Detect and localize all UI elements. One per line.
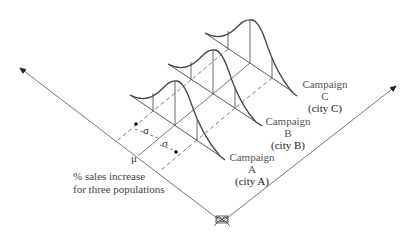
axis-caption-line1: % sales increase xyxy=(73,170,165,183)
left-axis xyxy=(20,68,222,222)
sigma-label-2: σ xyxy=(162,137,168,149)
mean-label: μ xyxy=(131,152,137,164)
sigma-label-1: σ xyxy=(143,124,149,136)
campaign-b-name: Campaign xyxy=(258,115,318,127)
campaign-b-letter: B xyxy=(258,127,318,139)
campaign-c-name: Campaign xyxy=(295,78,355,90)
bell-curve-c xyxy=(205,20,293,93)
campaign-c-letter: C xyxy=(295,90,355,102)
campaign-c-city: (city C) xyxy=(295,102,355,114)
bell-curve-b xyxy=(168,50,256,122)
axis-caption-line2: for three populations xyxy=(73,183,165,196)
axis-caption: % sales increase for three populations xyxy=(73,170,165,196)
campaign-a-letter: A xyxy=(222,163,282,175)
origin-symbol-icon xyxy=(214,216,230,226)
distribution-campaign-b xyxy=(168,50,256,122)
campaign-b-city: (city B) xyxy=(258,139,318,151)
label-campaign-a: Campaign A (city A) xyxy=(222,151,282,187)
baseline-c xyxy=(205,33,293,92)
label-campaign-c: Campaign C (city C) xyxy=(295,78,355,114)
distribution-campaign-a xyxy=(130,81,220,156)
label-campaign-b: Campaign B (city B) xyxy=(258,115,318,151)
baseline-b xyxy=(168,64,256,122)
three-populations-diagram xyxy=(0,0,408,241)
campaign-a-name: Campaign xyxy=(222,151,282,163)
distribution-campaign-c xyxy=(205,20,293,93)
campaign-a-city: (city A) xyxy=(222,175,282,187)
